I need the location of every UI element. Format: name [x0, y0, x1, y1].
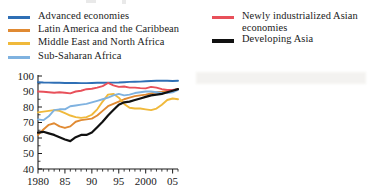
data-series-group [38, 81, 178, 141]
legend-column-left: Advanced economies Latin America and the… [8, 11, 208, 64]
scan-mark [122, 0, 126, 4]
legend-item-developing-asia[interactable]: Developing Asia [212, 34, 382, 47]
x-axis-tick-label: 95 [113, 175, 125, 187]
x-axis-tick-label: 85 [59, 175, 71, 187]
x-axis-tick-label: 1980 [27, 175, 50, 187]
legend-swatch-developing-asia [212, 39, 234, 43]
scan-mark [86, 0, 96, 3]
x-axis-tick-label: 05 [167, 175, 179, 187]
line-chart: 405060708090100 1980859095200005 [0, 68, 382, 193]
legend-item-sub-saharan-africa[interactable]: Sub-Saharan Africa [8, 51, 208, 64]
legend-label-developing-asia: Developing Asia [242, 33, 313, 45]
y-axis-tick-label: 50 [23, 147, 35, 159]
scan-artifact-top [0, 0, 382, 9]
y-axis-ticks [38, 76, 42, 169]
legend-item-newly-industrialized-asia[interactable]: Newly industrialized Asian economies [212, 11, 382, 34]
x-axis-tick-labels: 1980859095200005 [27, 175, 179, 187]
x-axis-tick-label: 2000 [135, 175, 158, 187]
legend-swatch-latin-america [8, 29, 30, 32]
y-axis-tick-label: 100 [18, 70, 35, 82]
legend-label-sub-saharan-africa: Sub-Saharan Africa [38, 50, 122, 62]
legend-label-advanced-economies: Advanced economies [38, 10, 129, 22]
legend-column-right: Newly industrialized Asian economies Dev… [212, 11, 382, 47]
y-axis-tick-label: 80 [23, 101, 35, 113]
legend-label-newly-industrialized-asia: Newly industrialized Asian economies [242, 10, 358, 33]
x-axis-ticks [38, 169, 178, 174]
legend-swatch-sub-saharan-africa [8, 56, 30, 59]
legend-label-middle-east-north-africa: Middle East and North Africa [38, 36, 164, 48]
x-axis-tick-label: 90 [86, 175, 98, 187]
legend-swatch-newly-industrialized-asia [212, 16, 234, 19]
y-axis-tick-label: 90 [23, 85, 35, 97]
y-axis-tick-label: 70 [23, 116, 35, 128]
chart-legend: Advanced economies Latin America and the… [0, 11, 382, 67]
y-axis-tick-label: 60 [23, 132, 35, 144]
chart-canvas: 405060708090100 1980859095200005 [0, 68, 382, 193]
legend-label-latin-america: Latin America and the Caribbean [38, 23, 179, 35]
y-axis-tick-label: 40 [23, 163, 35, 175]
legend-swatch-middle-east [8, 42, 30, 45]
legend-swatch-advanced-economies [8, 16, 30, 19]
y-axis-tick-labels: 405060708090100 [18, 70, 35, 175]
axis-lines [38, 75, 178, 169]
